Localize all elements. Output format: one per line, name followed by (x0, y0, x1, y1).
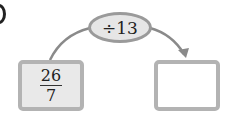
operation-label: ÷13 (102, 18, 138, 38)
answer-box[interactable] (154, 60, 220, 111)
input-box: 26 7 (18, 60, 84, 111)
input-fraction: 26 7 (40, 67, 62, 105)
numerator: 26 (41, 67, 61, 84)
incoming-arc (50, 28, 90, 60)
operation-oval: ÷13 (88, 12, 152, 43)
denominator: 7 (46, 87, 56, 104)
